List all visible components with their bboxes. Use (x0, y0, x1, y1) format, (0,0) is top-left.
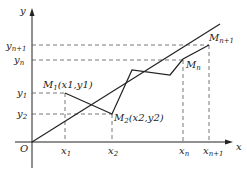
y-axis-label: y (19, 5, 26, 16)
diagram-canvas: y x O yn+1 yn y1 y2 x1 x2 xn xn+1 M1(x1,… (0, 0, 247, 172)
y-axis-arrow-icon (30, 8, 35, 16)
x-axis-label: x (236, 141, 242, 152)
y-tick-label: y2 (16, 108, 28, 121)
x-tick-label: xn+1 (203, 145, 223, 158)
y-tick-label: y1 (16, 87, 27, 100)
x-tick-label: x2 (108, 145, 119, 158)
point-label-m2: M2(x2,y2) (113, 112, 164, 125)
point-label-mn: Mn (185, 59, 201, 72)
point-label-mn1: Mn+1 (208, 32, 234, 45)
origin-label: O (20, 143, 28, 154)
x-tick-label: xn (179, 145, 190, 158)
point-label-m1: M1(x1,y1) (42, 79, 93, 92)
y-tick-label: yn (13, 54, 25, 67)
x-tick-label: x1 (61, 145, 71, 158)
x-axis-arrow-icon (225, 140, 233, 145)
y-tick-label: yn+1 (5, 40, 26, 53)
